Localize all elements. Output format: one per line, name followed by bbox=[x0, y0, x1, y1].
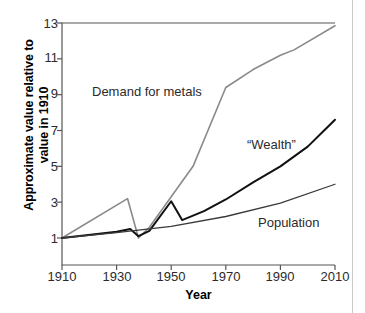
chart-figure: Approximate value relative to value in 1… bbox=[0, 0, 365, 313]
x-axis-label: Year bbox=[62, 288, 335, 302]
plot-area bbox=[0, 0, 365, 313]
series-line-demand-for-metals bbox=[62, 26, 335, 238]
series-label-demand-for-metals: Demand for metals bbox=[92, 84, 202, 99]
series-label-wealth: “Wealth” bbox=[247, 137, 296, 152]
x-tick-marks bbox=[62, 265, 335, 270]
series-label-population: Population bbox=[258, 215, 319, 230]
series-lines bbox=[62, 26, 335, 238]
y-tick-marks bbox=[57, 23, 62, 238]
